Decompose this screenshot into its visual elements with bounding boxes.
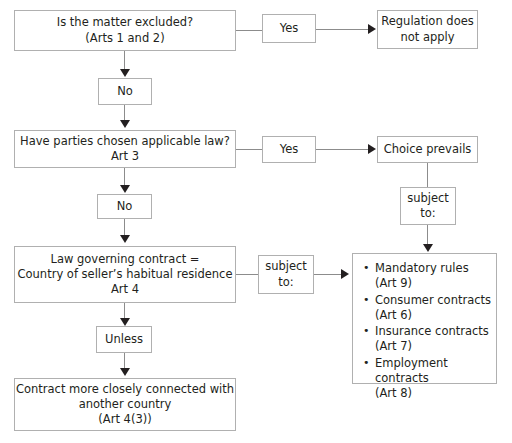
node-law-governing-contract[interactable]: Law governing contract = Country of sell… (14, 246, 236, 303)
arrow-subject1-to-rules (423, 244, 433, 252)
node-line: Have parties chosen applicable law? (20, 134, 230, 149)
rule-article: (Art 8) (375, 386, 492, 401)
arrow-yes2-to-choice (368, 144, 376, 154)
node-line: not apply (400, 30, 454, 45)
rule-text: Insurance contracts (375, 324, 489, 338)
node-regulation-does-not-apply[interactable]: Regulation does not apply (377, 10, 478, 49)
node-line: No (117, 199, 133, 214)
node-no-chosen[interactable]: No (97, 194, 152, 219)
list-item: Mandatory rules (Art 9) (375, 261, 492, 292)
node-line: Art 3 (111, 149, 139, 164)
list-item: Employment contracts (Art 8) (375, 356, 492, 402)
connector-excluded-to-yes1 (236, 30, 262, 31)
node-line: to: (420, 206, 435, 221)
connector-law-to-unless (124, 303, 125, 319)
node-line: Choice prevails (384, 142, 472, 157)
node-line: Regulation does (381, 14, 473, 29)
node-line: subject (265, 259, 307, 274)
list-item: Consumer contracts (Art 6) (375, 293, 492, 324)
connector-excluded-to-no1 (124, 51, 125, 71)
node-line: (Arts 1 and 2) (85, 31, 164, 46)
connector-yes2-to-choice (316, 149, 370, 150)
connector-choice-to-subject1 (427, 163, 428, 187)
node-line: Yes (280, 21, 299, 36)
node-line: Contract more closely connected with (16, 382, 234, 397)
node-line: Country of seller’s habitual residence (18, 267, 233, 282)
flowchart-canvas: Is the matter excluded? (Arts 1 and 2) Y… (0, 0, 512, 443)
node-line: Yes (280, 142, 299, 157)
arrow-excluded-to-no1 (120, 69, 130, 77)
node-choice-prevails[interactable]: Choice prevails (377, 136, 478, 163)
node-unless[interactable]: Unless (96, 326, 152, 353)
list-item: Insurance contracts (Art 7) (375, 324, 492, 355)
node-line: Art 4 (111, 282, 139, 297)
node-line: Law governing contract = (50, 252, 199, 267)
rule-text: Mandatory rules (375, 261, 469, 275)
node-have-parties-chosen-applicable-law[interactable]: Have parties chosen applicable law? Art … (14, 130, 236, 168)
arrow-yes1-to-noapply (368, 24, 376, 34)
connector-no1-to-chosen (124, 105, 125, 121)
node-yes-chosen[interactable]: Yes (262, 136, 316, 163)
node-line: Is the matter excluded? (57, 15, 193, 30)
node-subject-to-law[interactable]: subject to: (258, 255, 314, 294)
arrow-chosen-to-no2 (120, 185, 130, 193)
rules-list: Mandatory rules (Art 9) Consumer contrac… (357, 261, 492, 402)
node-line: Unless (105, 332, 143, 347)
connector-subject1-to-rules (427, 225, 428, 245)
node-line: another country (79, 397, 172, 412)
node-no-excluded[interactable]: No (98, 78, 152, 105)
rule-article: (Art 6) (375, 308, 492, 323)
rule-article: (Art 7) (375, 339, 492, 354)
node-contract-more-closely-connected[interactable]: Contract more closely connected with ano… (14, 378, 236, 431)
node-mandatory-rules-list[interactable]: Mandatory rules (Art 9) Consumer contrac… (352, 253, 497, 384)
node-subject-to-choice[interactable]: subject to: (400, 187, 456, 225)
arrow-unless-to-contract (120, 368, 130, 376)
arrow-subject2-to-rules (341, 269, 349, 279)
rule-article: (Art 9) (375, 276, 492, 291)
node-line: No (117, 84, 133, 99)
arrow-no2-to-law (120, 235, 130, 243)
node-is-matter-excluded[interactable]: Is the matter excluded? (Arts 1 and 2) (14, 10, 236, 51)
connector-yes1-to-noapply (316, 29, 370, 30)
connector-chosen-to-yes2 (236, 149, 262, 150)
node-line: (Art 4(3)) (98, 412, 151, 427)
connector-law-to-subject2 (236, 274, 258, 275)
node-yes-excluded[interactable]: Yes (262, 14, 316, 43)
node-line: to: (278, 275, 293, 290)
connector-chosen-to-no2 (124, 168, 125, 186)
arrow-law-to-unless (120, 318, 130, 326)
rule-text: Consumer contracts (375, 293, 491, 307)
node-line: subject (407, 191, 449, 206)
rule-text: Employment contracts (375, 356, 448, 385)
connector-no2-to-law (124, 219, 125, 236)
connector-subject2-to-rules (314, 274, 342, 275)
connector-unless-to-contract (124, 353, 125, 369)
arrow-no1-to-chosen (120, 120, 130, 128)
